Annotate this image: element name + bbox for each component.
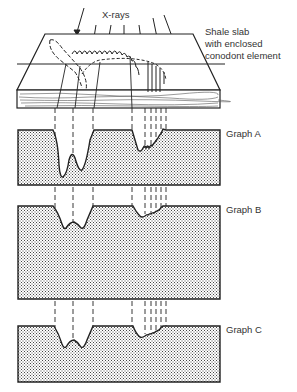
- graph-b-label: Graph B: [226, 204, 261, 215]
- graph-a-label: Graph A: [226, 128, 261, 139]
- slab-label-line-1: Shale slab: [205, 26, 249, 37]
- xray-label: X-rays: [102, 9, 129, 20]
- slab-label-line-2: with enclosed: [205, 38, 263, 49]
- shale-slab: [17, 34, 230, 108]
- graph-a-profile: [18, 129, 220, 185]
- graph-c-profile: [18, 326, 220, 382]
- graph-c-label: Graph C: [226, 324, 262, 335]
- slab-label-line-3: conodont element: [205, 50, 281, 61]
- graph-b-profile: [18, 206, 220, 299]
